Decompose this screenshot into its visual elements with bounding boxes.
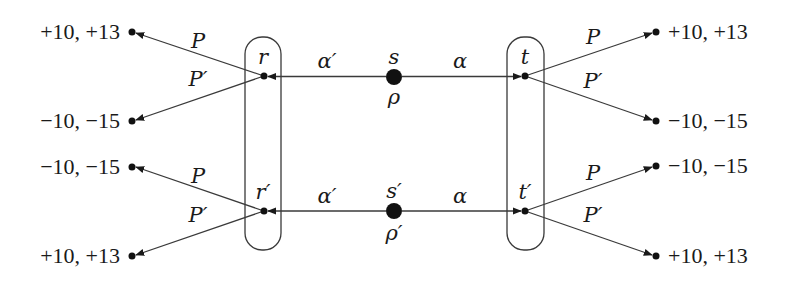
payoff-label: −10, −15	[668, 153, 748, 178]
action-label-P-prime: P′	[188, 203, 208, 227]
action-label-P: P	[190, 164, 206, 188]
payoff-label: −10, −15	[40, 154, 120, 179]
edge-label-alpha: α	[453, 49, 467, 73]
edge-label-alpha-prime: α′	[318, 49, 337, 73]
prob-label-rho-prime: ρ′	[384, 221, 402, 245]
terminal-node	[653, 163, 660, 170]
action-label-P-prime: P′	[583, 203, 603, 227]
chance-node-s	[386, 69, 402, 85]
node-label-t-prime: t′	[518, 180, 531, 204]
node-label-t: t	[521, 45, 530, 69]
prob-label-rho: ρ	[387, 85, 401, 109]
edge-label-alpha: α	[453, 184, 467, 208]
terminal-node	[129, 253, 136, 260]
payoff-label: +10, +13	[668, 243, 748, 268]
payoff-label: +10, +13	[40, 243, 120, 268]
payoff-label: +10, +13	[40, 19, 120, 44]
chance-node-s-prime	[386, 203, 402, 219]
terminal-node	[129, 118, 136, 125]
action-label-P: P	[585, 161, 601, 185]
edge-label-alpha-prime: α′	[318, 184, 337, 208]
terminal-node	[653, 253, 660, 260]
terminal-node	[653, 118, 660, 125]
action-label-P: P	[585, 25, 601, 49]
payoff-label: +10, +13	[668, 19, 748, 44]
action-label-P-prime: P′	[188, 67, 208, 91]
decision-node-r-prime	[261, 208, 268, 215]
payoff-label: −10, −15	[668, 108, 748, 133]
payoff-label: −10, −15	[40, 108, 120, 133]
decision-node-r	[261, 73, 268, 80]
node-label-r-prime: r′	[256, 180, 271, 204]
terminal-node	[653, 29, 660, 36]
node-label-s: s	[389, 45, 400, 69]
terminal-node	[129, 164, 136, 171]
action-label-P: P	[190, 29, 206, 53]
terminal-node	[129, 29, 136, 36]
decision-node-t-prime	[522, 208, 529, 215]
decision-node-t	[522, 73, 529, 80]
game-tree-diagram: s ρ s′ ρ′ r t r′ t′ α′ α α′ α P P′ P P′ …	[0, 0, 786, 282]
node-label-s-prime: s′	[386, 179, 402, 203]
action-label-P-prime: P′	[583, 69, 603, 93]
node-label-r: r	[258, 45, 270, 69]
